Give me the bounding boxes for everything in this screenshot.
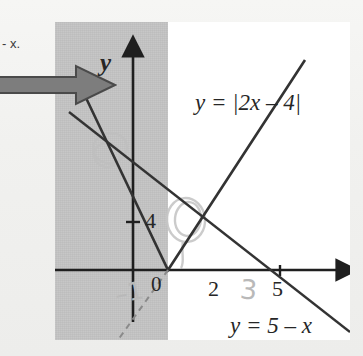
pencil-circle-right-intersection (165, 196, 207, 268)
equation-label-line: y = 5 – x (230, 314, 312, 337)
annotation-arrow-icon (0, 62, 117, 108)
x-tick-label-5: 5 (272, 278, 283, 300)
x-tick-label-0: 0 (151, 274, 162, 295)
y-tick-label-4: 4 (145, 210, 156, 232)
figure-page: - x. (0, 0, 363, 356)
equation-label-absolute-value: y = |2x – 4| (195, 91, 301, 114)
body-text-fragment: - x. (2, 36, 20, 51)
x-tick-label-2: 2 (208, 278, 219, 300)
